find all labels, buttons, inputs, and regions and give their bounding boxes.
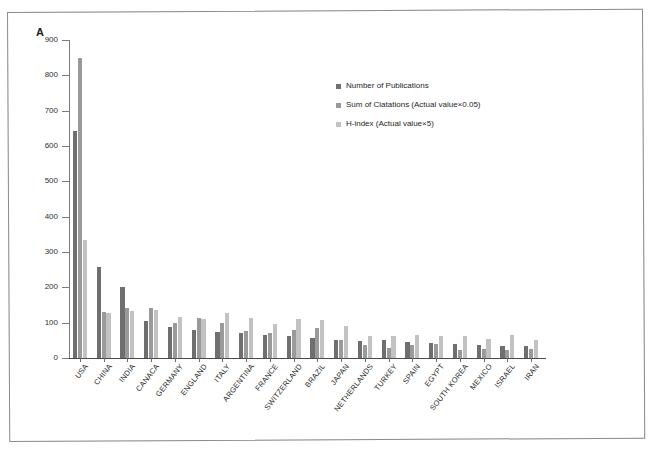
x-axis-label: USA bbox=[73, 362, 90, 380]
x-axis-label: BRAZIL bbox=[303, 362, 327, 389]
x-axis-tick bbox=[484, 358, 485, 362]
bar bbox=[239, 333, 243, 358]
bar bbox=[344, 326, 348, 358]
y-axis-tick bbox=[62, 146, 69, 147]
y-axis-line bbox=[69, 40, 70, 359]
y-axis-tick bbox=[62, 40, 69, 41]
x-axis-tick bbox=[80, 358, 81, 362]
bar bbox=[486, 339, 490, 358]
bar bbox=[458, 350, 462, 358]
x-axis-tick bbox=[294, 358, 295, 362]
bar bbox=[320, 320, 324, 358]
bar bbox=[287, 336, 291, 358]
x-axis-tick bbox=[151, 358, 152, 362]
y-axis-tick bbox=[62, 181, 69, 182]
bar bbox=[391, 336, 395, 358]
bar bbox=[368, 336, 372, 358]
x-axis-tick bbox=[222, 358, 223, 362]
bar bbox=[249, 318, 253, 358]
x-axis-tick bbox=[127, 358, 128, 362]
legend-label: Sum of Ciatations (Actual value×0.05) bbox=[346, 101, 481, 109]
bar bbox=[477, 345, 481, 358]
x-axis-label: CHINA bbox=[92, 362, 114, 387]
bar bbox=[220, 323, 224, 358]
y-axis-label: 400 bbox=[24, 213, 58, 221]
y-axis-label: 600 bbox=[24, 142, 58, 150]
bar bbox=[197, 318, 201, 358]
figure-panel-a: A 0100200300400500600700800900 USACHINAI… bbox=[0, 0, 650, 451]
bar bbox=[315, 328, 319, 358]
legend-item: H-index (Actual value×5) bbox=[336, 120, 481, 128]
x-axis-tick bbox=[341, 358, 342, 362]
x-axis-tick bbox=[199, 358, 200, 362]
x-axis-label: IRAN bbox=[523, 362, 542, 382]
bar bbox=[363, 345, 367, 358]
bar bbox=[334, 340, 338, 358]
bar bbox=[73, 131, 77, 358]
x-axis-tick bbox=[460, 358, 461, 362]
x-axis-tick bbox=[365, 358, 366, 362]
bar bbox=[382, 340, 386, 358]
bar bbox=[524, 346, 528, 358]
bar bbox=[500, 346, 504, 358]
bar bbox=[106, 313, 110, 358]
bar bbox=[273, 324, 277, 358]
bar bbox=[173, 323, 177, 358]
bar bbox=[510, 335, 514, 358]
chart-legend: Number of PublicationsSum of Ciatations … bbox=[336, 82, 481, 139]
x-axis-tick bbox=[270, 358, 271, 362]
y-axis-label: 300 bbox=[24, 248, 58, 256]
y-axis-tick bbox=[62, 111, 69, 112]
y-axis-tick bbox=[62, 217, 69, 218]
x-axis-label: ITALY bbox=[213, 362, 233, 384]
bar bbox=[201, 319, 205, 358]
x-axis-label: EGYPT bbox=[423, 362, 446, 388]
x-axis-tick bbox=[175, 358, 176, 362]
bar bbox=[429, 343, 433, 358]
bar bbox=[415, 335, 419, 358]
bar bbox=[263, 335, 267, 358]
bar bbox=[268, 333, 272, 358]
y-axis-label: 100 bbox=[24, 319, 58, 327]
y-axis-tick bbox=[62, 252, 69, 253]
y-axis-label: 500 bbox=[24, 177, 58, 185]
legend-label: H-index (Actual value×5) bbox=[346, 120, 434, 128]
bar bbox=[244, 331, 248, 358]
legend-item: Number of Publications bbox=[336, 82, 481, 90]
x-axis-label: SPAIN bbox=[401, 362, 422, 386]
bar bbox=[410, 345, 414, 358]
x-axis-tick bbox=[412, 358, 413, 362]
bar bbox=[434, 344, 438, 358]
legend-item: Sum of Ciatations (Actual value×0.05) bbox=[336, 101, 481, 109]
bar bbox=[453, 344, 457, 358]
x-axis-tick bbox=[246, 358, 247, 362]
x-axis-tick bbox=[507, 358, 508, 362]
bar bbox=[154, 310, 158, 358]
x-axis-label: MEXICO bbox=[468, 362, 494, 392]
bar bbox=[405, 342, 409, 358]
y-axis-tick bbox=[62, 323, 69, 324]
bar bbox=[225, 313, 229, 358]
y-axis-label: 700 bbox=[24, 107, 58, 115]
legend-label: Number of Publications bbox=[346, 82, 429, 90]
x-axis-label: TURKEY bbox=[372, 362, 399, 392]
bar bbox=[358, 341, 362, 358]
bar bbox=[505, 350, 509, 358]
bar bbox=[125, 308, 129, 358]
bar bbox=[339, 340, 343, 358]
y-axis-tick bbox=[62, 287, 69, 288]
bar bbox=[463, 336, 467, 358]
bar bbox=[83, 240, 87, 358]
bar bbox=[296, 319, 300, 358]
bar bbox=[482, 349, 486, 358]
y-axis-label: 0 bbox=[24, 354, 58, 362]
x-axis-label: JAPAN bbox=[329, 362, 351, 387]
bar bbox=[387, 348, 391, 358]
bar bbox=[149, 308, 153, 358]
y-axis-tick bbox=[62, 75, 69, 76]
y-axis-tick bbox=[62, 358, 69, 359]
x-axis-tick bbox=[104, 358, 105, 362]
bar bbox=[102, 312, 106, 358]
bar bbox=[310, 338, 314, 358]
x-axis-tick bbox=[317, 358, 318, 362]
